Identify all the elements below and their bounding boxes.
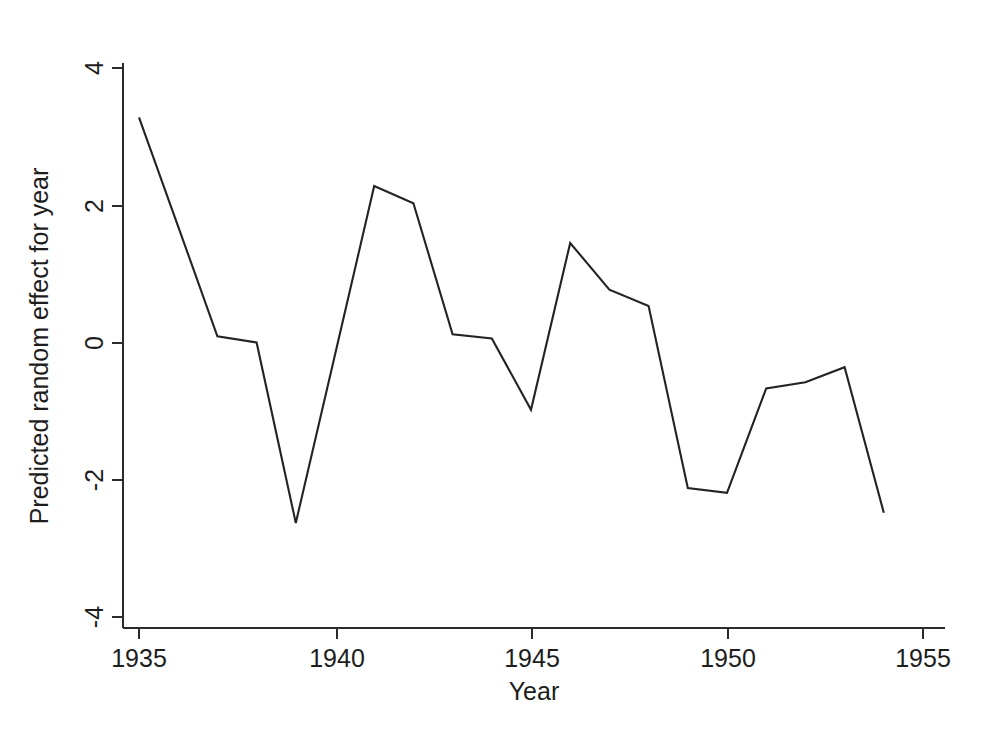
y-tick-label: -2: [80, 469, 108, 491]
x-axis-tick-labels: 19351940194519501955: [111, 644, 951, 672]
y-tick-label: 0: [80, 336, 108, 350]
chart-figure: 420-2-4 19351940194519501955 Year Predic…: [0, 0, 993, 739]
y-axis-ticks: [112, 68, 123, 617]
y-axis-tick-labels: 420-2-4: [80, 61, 108, 628]
x-axis-ticks: [139, 628, 923, 639]
x-tick-label: 1955: [895, 644, 951, 672]
x-tick-label: 1945: [504, 644, 560, 672]
x-tick-label: 1935: [111, 644, 167, 672]
y-tick-label: 2: [80, 199, 108, 213]
x-axis-title: Year: [509, 677, 560, 705]
y-tick-label: 4: [80, 61, 108, 75]
random-effect-line: [139, 117, 884, 523]
y-tick-label: -4: [80, 606, 108, 628]
x-tick-label: 1950: [700, 644, 756, 672]
line-chart-svg: 420-2-4 19351940194519501955 Year Predic…: [0, 0, 993, 739]
y-axis-title: Predicted random effect for year: [25, 168, 53, 525]
x-tick-label: 1940: [309, 644, 365, 672]
